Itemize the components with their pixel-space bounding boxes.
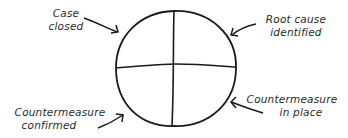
arrow-root-cause-icon bbox=[231, 24, 256, 36]
label-line: Root cause bbox=[254, 13, 338, 26]
horizontal-divider bbox=[116, 64, 236, 68]
label-line: Countermeasure bbox=[10, 106, 110, 119]
label-countermeasure-in-place: Countermeasure in place bbox=[242, 93, 342, 119]
label-line: Case bbox=[38, 7, 94, 20]
label-line: identified bbox=[254, 26, 338, 39]
label-line: in place bbox=[242, 106, 342, 119]
label-line: confirmed bbox=[10, 119, 110, 132]
label-line: closed bbox=[38, 20, 94, 33]
label-root-cause-identified: Root cause identified bbox=[254, 13, 338, 39]
cycle-circle bbox=[116, 11, 236, 126]
label-case-closed: Case closed bbox=[38, 7, 94, 33]
label-line: Countermeasure bbox=[242, 93, 342, 106]
vertical-divider bbox=[172, 11, 174, 126]
label-countermeasure-confirmed: Countermeasure confirmed bbox=[10, 106, 110, 132]
